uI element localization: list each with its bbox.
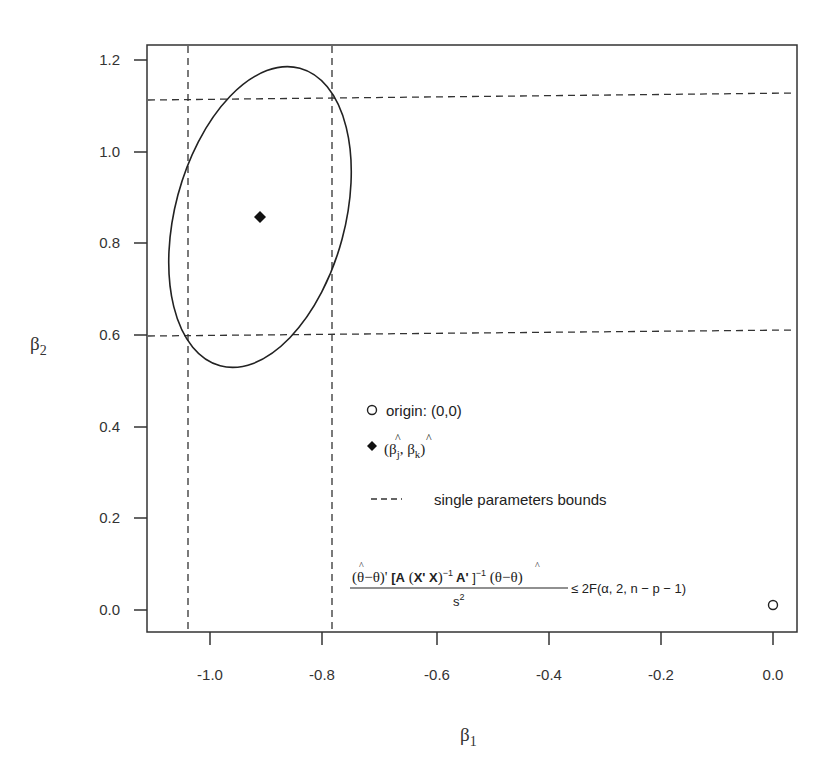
confidence-region-formula: (θ−θ)' [A (X' X)−1 A' ]−1 (θ−θ) ^ ^ s2 ≤… <box>350 560 686 609</box>
x-axis: -1.0 -0.8 -0.6 -0.4 -0.2 0.0 <box>197 632 783 683</box>
beta2-lower-bound-line <box>148 330 796 336</box>
y-tick-label: 1.0 <box>99 143 120 160</box>
y-tick-label: 0.2 <box>99 509 120 526</box>
formula-rhs: ≤ 2F(α, 2, n − p − 1) <box>571 581 686 596</box>
x-tick-label: -0.8 <box>309 666 335 683</box>
formula-numerator: (θ−θ)' [A (X' X)−1 A' ]−1 (θ−θ) <box>352 568 523 586</box>
single-parameter-bounds <box>148 46 796 631</box>
legend-estimate-label: (βj, βk) <box>384 441 425 460</box>
y-tick-label: 0.8 <box>99 234 120 251</box>
legend: origin: (0,0) (βj, βk) ^ ^ single parame… <box>367 402 607 508</box>
legend-diamond-icon <box>367 441 377 451</box>
origin-point-circle-icon <box>769 601 778 610</box>
x-tick-label: -0.6 <box>424 666 450 683</box>
hat-icon: ^ <box>535 560 540 571</box>
beta2-upper-bound-line <box>148 93 796 100</box>
formula-denominator: s2 <box>453 592 465 609</box>
y-tick-label: 0.4 <box>99 418 120 435</box>
estimate-point-diamond-icon <box>254 211 266 223</box>
x-tick-label: -0.4 <box>536 666 562 683</box>
y-tick-label: 1.2 <box>99 51 120 68</box>
legend-origin-label: origin: (0,0) <box>386 402 462 419</box>
y-tick-label: 0.0 <box>99 601 120 618</box>
x-tick-label: -0.2 <box>648 666 674 683</box>
plot-frame <box>147 45 797 632</box>
hat-icon: ^ <box>359 560 364 571</box>
y-axis: 0.0 0.2 0.4 0.6 0.8 1.0 1.2 <box>99 51 147 618</box>
legend-circle-icon <box>368 406 377 415</box>
y-axis-title: β2 <box>30 333 47 358</box>
confidence-region-chart: 0.0 0.2 0.4 0.6 0.8 1.0 1.2 -1.0 -0.8 -0… <box>0 0 840 774</box>
hat-icon: ^ <box>395 431 401 445</box>
hat-icon: ^ <box>426 431 432 445</box>
legend-bounds-label: single parameters bounds <box>434 491 607 508</box>
y-tick-label: 0.6 <box>99 326 120 343</box>
x-tick-label: 0.0 <box>763 666 784 683</box>
x-tick-label: -1.0 <box>197 666 223 683</box>
x-axis-title: β1 <box>460 724 477 749</box>
